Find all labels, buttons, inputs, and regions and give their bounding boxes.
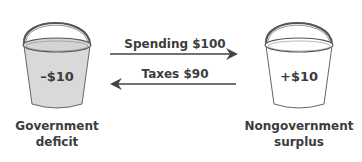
nongovernment-bucket [265,23,333,108]
taxes-label: Taxes $90 [120,67,230,81]
nongovernment-value-label: +$10 [274,69,324,84]
bucket-rim [265,38,333,52]
nongovernment-caption-line1: Nongovernment [244,118,354,134]
government-value-label: –$10 [32,69,82,84]
government-bucket [23,23,91,108]
government-caption-line2: deficit [7,134,107,150]
spending-label: Spending $100 [120,37,230,51]
government-caption-line1: Government [7,118,107,134]
nongovernment-caption-line2: surplus [244,134,354,150]
bucket-rim [23,38,91,52]
